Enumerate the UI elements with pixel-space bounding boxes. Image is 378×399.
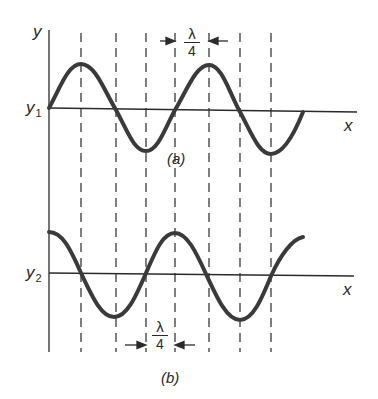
panel-a-caption: (a)	[167, 151, 185, 166]
fraction-denominator: 4	[150, 337, 170, 351]
y2-label-subscript: 2	[36, 272, 42, 284]
lambda-symbol: λ	[150, 319, 170, 334]
x-axis-label-b: x	[343, 281, 352, 298]
wave-diagram	[0, 0, 378, 399]
y2-label-main: y	[26, 263, 35, 282]
y1-label: y1	[26, 99, 42, 119]
x-axis-a	[49, 108, 357, 112]
lambda-symbol: λ	[182, 26, 202, 41]
x-axis-label-a: x	[344, 117, 353, 134]
lambda-quarter-label-b: λ 4	[150, 319, 170, 351]
dashed-guides	[81, 33, 271, 352]
y1-label-subscript: 1	[36, 107, 42, 119]
panel-b-caption: (b)	[161, 370, 179, 385]
x-axis-b	[49, 273, 354, 276]
fraction-denominator: 4	[182, 44, 202, 58]
y1-label-main: y	[26, 98, 35, 117]
y-axis-label: y	[33, 23, 42, 40]
lambda-quarter-label-a: λ 4	[182, 26, 202, 58]
y2-label: y2	[26, 264, 42, 284]
wave-y2-curve	[49, 232, 303, 320]
